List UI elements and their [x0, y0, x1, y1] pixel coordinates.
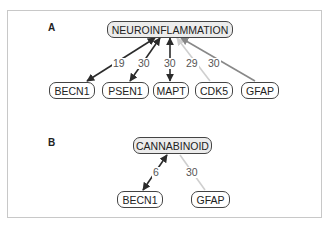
edge-weight-mapt: 30 [163, 58, 177, 69]
node-becn1-b: BECN1 [117, 191, 163, 208]
node-cdk5-a: CDK5 [195, 82, 233, 99]
edge-weight-becn1: 19 [112, 58, 126, 69]
edge-weight-cdk5: 29 [185, 58, 199, 69]
panel-label-a: A [48, 22, 55, 33]
node-cannabinoid: CANNABINOID [133, 137, 212, 154]
edge-weight-psen1: 30 [137, 58, 151, 69]
edge-weight-becn1-b: 6 [152, 167, 160, 178]
node-gfap-a: GFAP [241, 82, 279, 99]
edge-weight-gfap: 30 [207, 58, 221, 69]
node-psen1-a: PSEN1 [102, 82, 149, 99]
panel-label-b: B [48, 137, 55, 148]
node-becn1-a: BECN1 [49, 82, 95, 99]
node-neuroinflammation: NEUROINFLAMMATION [107, 21, 233, 38]
node-gfap-b: GFAP [191, 191, 230, 208]
edge-weight-gfap-b: 30 [185, 167, 199, 178]
node-mapt-a: MAPT [153, 82, 189, 99]
